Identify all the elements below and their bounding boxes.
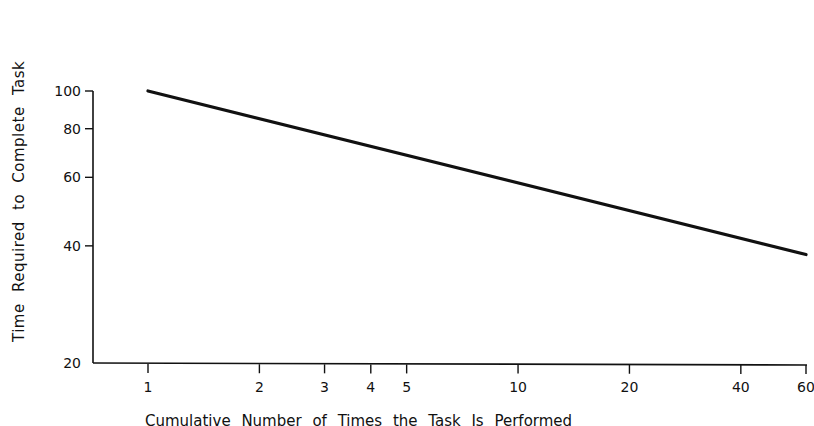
- line-chart: 204060801001234510204060: [0, 0, 814, 426]
- learning-curve-line: [148, 91, 806, 255]
- x-tick-label: 10: [509, 379, 527, 395]
- x-tick-label: 20: [621, 379, 639, 395]
- y-axis-label: Time Required to Complete Task: [10, 42, 34, 342]
- x-tick-label: 2: [255, 379, 264, 395]
- x-tick-label: 60: [797, 379, 814, 395]
- series: [148, 91, 806, 255]
- y-tick-label: 60: [63, 169, 81, 185]
- x-tick-label: 40: [732, 379, 750, 395]
- y-tick-label: 100: [54, 83, 81, 99]
- y-tick-label: 40: [63, 238, 81, 254]
- x-tick-label: 5: [402, 379, 411, 395]
- axes: 204060801001234510204060: [54, 83, 814, 395]
- y-tick-label: 20: [63, 355, 81, 371]
- y-tick-label: 80: [63, 121, 81, 137]
- x-tick-label: 3: [320, 379, 329, 395]
- x-tick-label: 4: [366, 379, 375, 395]
- x-axis-label: Cumulative Number of Times the Task Is P…: [145, 412, 572, 426]
- x-axis-line: [93, 363, 807, 365]
- x-tick-label: 1: [144, 379, 153, 395]
